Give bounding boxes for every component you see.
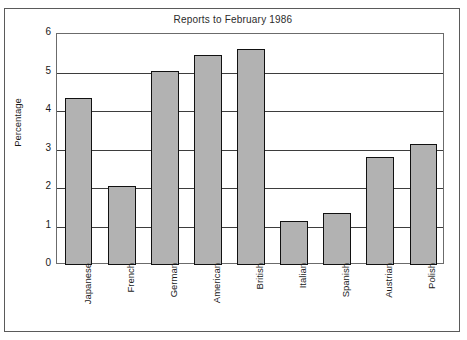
x-tick-label-japanese: Japanese (82, 263, 93, 325)
x-tick-label-polish: Polish (426, 263, 437, 325)
chart-title: Reports to February 1986 (5, 14, 461, 25)
bar-polish[interactable] (410, 144, 438, 265)
x-tick-label-austrian: Austrian (383, 263, 394, 325)
x-tick-label-british: British (254, 263, 265, 325)
x-tick-label-spanish: Spanish (340, 263, 351, 325)
y-axis-tick-labels: 0123456 (29, 33, 51, 264)
bar-austrian[interactable] (366, 157, 394, 265)
bar-american[interactable] (194, 55, 222, 265)
bar-british[interactable] (237, 49, 265, 265)
x-tick-label-italian: Italian (297, 263, 308, 325)
x-axis-tick-labels: JapaneseFrenchGermanAmericanBritishItali… (56, 267, 444, 329)
y-axis-title: Percentage (12, 73, 23, 173)
bar-japanese[interactable] (65, 98, 93, 265)
y-tick-label: 1 (31, 219, 51, 230)
bar-spanish[interactable] (323, 213, 351, 265)
chart-figure: Reports to February 1986 Percentage 0123… (4, 8, 460, 332)
y-tick-label: 5 (31, 65, 51, 76)
y-tick-label: 4 (31, 103, 51, 114)
y-tick-label: 3 (31, 142, 51, 153)
bar-german[interactable] (151, 71, 179, 265)
y-tick-label: 0 (31, 257, 51, 268)
x-tick-label-german: German (168, 263, 179, 325)
bar-french[interactable] (108, 186, 136, 265)
x-tick-label-american: American (211, 263, 222, 325)
plot-area (56, 33, 444, 264)
bar-italian[interactable] (280, 221, 308, 265)
y-tick-label: 2 (31, 180, 51, 191)
y-tick-label: 6 (31, 26, 51, 37)
x-tick-label-french: French (125, 263, 136, 325)
